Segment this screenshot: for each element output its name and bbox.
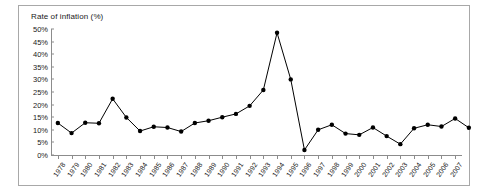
x-tick-mark xyxy=(72,156,73,159)
y-tick-label: 35% xyxy=(33,62,48,71)
x-tick-mark xyxy=(126,156,127,159)
x-tick-mark xyxy=(441,156,442,159)
y-tick-mark xyxy=(51,54,54,55)
x-tick-mark xyxy=(400,156,401,159)
x-tick-mark xyxy=(99,156,100,159)
x-tick-mark xyxy=(140,156,141,159)
y-tick-mark xyxy=(51,142,54,143)
x-tick-mark xyxy=(373,156,374,159)
y-tick-label: 25% xyxy=(33,88,48,97)
x-tick-mark xyxy=(359,156,360,159)
y-tick-label: 40% xyxy=(33,50,48,59)
x-tick-mark xyxy=(346,156,347,159)
x-tick-mark xyxy=(250,156,251,159)
x-tick-mark xyxy=(113,156,114,159)
x-tick-mark xyxy=(167,156,168,159)
y-tick-mark xyxy=(51,79,54,80)
y-tick-label: 5% xyxy=(37,138,48,147)
x-tick-mark xyxy=(85,156,86,159)
y-tick-label: 45% xyxy=(33,37,48,46)
x-tick-mark xyxy=(58,156,59,159)
y-tick-mark xyxy=(51,41,54,42)
x-tick-mark xyxy=(263,156,264,159)
y-tick-mark xyxy=(51,155,54,156)
x-tick-mark xyxy=(387,156,388,159)
x-tick-mark xyxy=(332,156,333,159)
y-tick-label: 15% xyxy=(33,113,48,122)
y-tick-mark xyxy=(51,66,54,67)
x-tick-mark xyxy=(304,156,305,159)
x-tick-mark xyxy=(414,156,415,159)
x-tick-mark xyxy=(209,156,210,159)
y-tick-label: 30% xyxy=(33,75,48,84)
x-tick-mark xyxy=(236,156,237,159)
y-tick-label: 10% xyxy=(33,125,48,134)
x-tick-mark xyxy=(154,156,155,159)
chart-title: Rate of inflation (%) xyxy=(31,12,103,21)
y-tick-mark xyxy=(51,129,54,130)
x-tick-mark xyxy=(428,156,429,159)
x-tick-mark xyxy=(455,156,456,159)
x-tick-mark xyxy=(195,156,196,159)
y-tick-label: 0% xyxy=(37,151,48,160)
y-tick-mark xyxy=(51,117,54,118)
x-tick-mark xyxy=(222,156,223,159)
y-tick-mark xyxy=(51,104,54,105)
x-tick-mark xyxy=(318,156,319,159)
y-tick-mark xyxy=(51,92,54,93)
y-tick-mark xyxy=(51,29,54,30)
x-tick-mark xyxy=(181,156,182,159)
y-tick-label: 20% xyxy=(33,100,48,109)
y-axis-line xyxy=(51,29,52,156)
x-tick-mark xyxy=(291,156,292,159)
y-tick-label: 50% xyxy=(33,25,48,34)
chart-figure: Rate of inflation (%) 0%5%10%15%20%25%30… xyxy=(0,0,477,195)
x-tick-mark xyxy=(277,156,278,159)
